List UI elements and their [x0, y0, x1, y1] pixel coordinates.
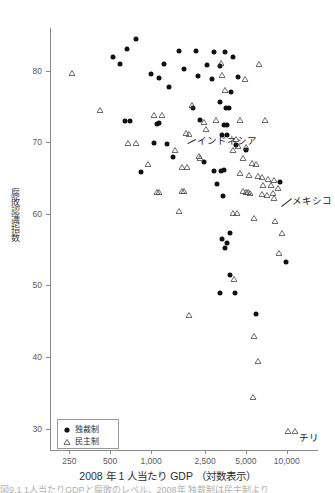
- data-point-autocracy: [224, 240, 229, 245]
- data-point-democracy: [221, 79, 228, 85]
- data-point-autocracy: [117, 61, 122, 66]
- annotation-label: チリ: [299, 430, 319, 444]
- data-point-democracy: [231, 268, 238, 274]
- legend-label-autocracy: 独裁制: [75, 423, 99, 434]
- data-point-democracy: [156, 181, 163, 187]
- data-point-autocracy: [124, 47, 129, 52]
- data-point-autocracy: [157, 121, 162, 126]
- data-point-autocracy: [157, 76, 162, 81]
- data-point-democracy: [184, 156, 191, 162]
- data-point-autocracy: [226, 106, 231, 111]
- legend: 独裁制 民主制: [57, 419, 119, 449]
- data-point-democracy: [181, 180, 188, 186]
- data-point-democracy: [247, 182, 254, 188]
- data-point-democracy: [96, 99, 103, 105]
- data-point-autocracy: [205, 63, 210, 68]
- data-point-autocracy: [222, 246, 227, 251]
- data-point-democracy: [272, 210, 279, 216]
- annotation-leader-line: [188, 139, 196, 144]
- data-point-autocracy: [170, 155, 175, 160]
- y-tick-mark: [46, 357, 50, 358]
- data-point-democracy: [218, 52, 225, 58]
- y-tick-label: 80: [12, 66, 42, 76]
- y-tick-label: 50: [12, 280, 42, 290]
- data-point-democracy: [254, 350, 261, 356]
- data-point-democracy: [171, 139, 178, 145]
- data-point-democracy: [241, 68, 248, 74]
- data-point-democracy: [267, 174, 274, 180]
- data-point-democracy: [175, 200, 182, 206]
- data-point-democracy: [185, 304, 192, 310]
- y-axis-line: [50, 28, 51, 450]
- data-point-democracy: [188, 94, 195, 100]
- data-point-autocracy: [283, 259, 288, 264]
- y-tick-mark: [46, 285, 50, 286]
- data-point-autocracy: [218, 169, 223, 174]
- x-tick-mark: [69, 450, 70, 454]
- annotation-leader-line: [281, 198, 292, 207]
- data-point-democracy: [158, 104, 165, 110]
- data-point-autocracy: [151, 141, 156, 146]
- data-point-democracy: [263, 184, 270, 190]
- legend-label-democracy: 民主制: [75, 435, 99, 446]
- data-point-democracy: [250, 325, 257, 331]
- data-point-democracy: [260, 174, 267, 180]
- data-point-democracy: [125, 132, 132, 138]
- y-tick-mark: [46, 142, 50, 143]
- data-point-democracy: [200, 111, 207, 117]
- data-point-autocracy: [229, 90, 234, 95]
- data-point-democracy: [68, 62, 75, 68]
- data-point-democracy: [219, 64, 226, 70]
- data-point-democracy: [133, 132, 140, 138]
- annotation-label: メキシコ: [292, 193, 332, 207]
- scatter-plot-figure: 304050607080 2505001,0002,5005,00010,000…: [0, 0, 335, 493]
- data-point-democracy: [275, 242, 282, 248]
- data-point-autocracy: [227, 230, 232, 235]
- y-tick-label: 70: [12, 137, 42, 147]
- data-point-autocracy: [236, 74, 241, 79]
- data-point-democracy: [284, 420, 291, 426]
- data-point-autocracy: [162, 62, 167, 67]
- x-tick-mark: [287, 450, 288, 454]
- y-tick-label: 30: [12, 424, 42, 434]
- data-point-democracy: [292, 420, 299, 426]
- data-point-autocracy: [211, 169, 216, 174]
- filled-circle-icon: [63, 426, 71, 436]
- data-point-democracy: [239, 147, 246, 153]
- data-point-democracy: [212, 109, 219, 115]
- y-tick-mark: [46, 71, 50, 72]
- x-tick-mark: [110, 450, 111, 454]
- x-tick-mark: [151, 450, 152, 454]
- data-point-democracy: [250, 207, 257, 213]
- data-point-democracy: [249, 386, 256, 392]
- data-point-democracy: [246, 164, 253, 170]
- data-point-autocracy: [194, 48, 199, 53]
- data-point-autocracy: [138, 169, 143, 174]
- annotation-label: インドネシア: [197, 133, 257, 147]
- data-point-autocracy: [232, 291, 237, 296]
- y-tick-mark: [46, 214, 50, 215]
- x-axis-title: 2008 年 1 人当たり GDP （対数表示）: [0, 468, 335, 483]
- data-point-autocracy: [221, 194, 226, 199]
- data-point-autocracy: [122, 118, 127, 123]
- data-point-democracy: [237, 162, 244, 168]
- data-point-democracy: [150, 104, 157, 110]
- data-point-autocracy: [176, 48, 181, 53]
- y-axis-title: 腐敗認識指数: [7, 188, 20, 242]
- data-point-autocracy: [110, 54, 115, 59]
- data-point-autocracy: [225, 123, 230, 128]
- data-point-autocracy: [128, 118, 133, 123]
- open-triangle-icon: [63, 438, 71, 448]
- data-point-autocracy: [149, 71, 154, 76]
- data-point-democracy: [255, 53, 262, 59]
- data-point-democracy: [197, 147, 204, 153]
- data-point-democracy: [203, 118, 210, 124]
- data-point-democracy: [252, 153, 259, 159]
- data-point-democracy: [233, 202, 240, 208]
- data-point-autocracy: [164, 141, 169, 146]
- data-point-autocracy: [166, 84, 171, 89]
- data-point-autocracy: [195, 73, 200, 78]
- x-tick-label: 1,000: [126, 456, 176, 466]
- data-point-autocracy: [211, 50, 216, 55]
- data-point-autocracy: [214, 181, 219, 186]
